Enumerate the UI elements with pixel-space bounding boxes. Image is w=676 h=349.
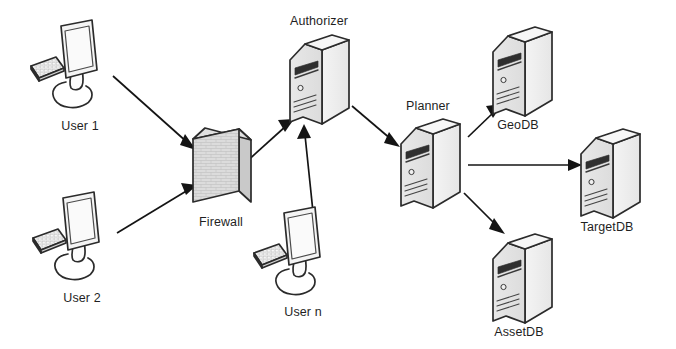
node-firewall[interactable]: Firewall	[193, 128, 251, 229]
server-tower-icon	[493, 27, 552, 116]
workstation-icon	[254, 207, 320, 294]
node-label-usern: User n	[284, 305, 321, 319]
node-label-geodb: GeoDB	[497, 118, 539, 132]
edge-planner-to-assetdb	[464, 193, 505, 234]
node-label-user1: User 1	[61, 119, 98, 133]
edge-authorizer-to-planner	[352, 106, 400, 147]
node-assetdb[interactable]: AssetDB	[493, 234, 552, 339]
edge-firewall-to-authorizer	[245, 119, 294, 163]
node-user1[interactable]: User 1	[31, 20, 99, 133]
edge-user2-to-firewall	[117, 183, 197, 233]
node-usern[interactable]: User n	[254, 207, 322, 319]
node-authorizer[interactable]: Authorizer	[290, 14, 349, 124]
edge-usern-to-authorizer	[297, 124, 313, 212]
server-tower-icon	[290, 35, 349, 124]
node-targetdb[interactable]: TargetDB	[581, 129, 640, 234]
node-geodb[interactable]: GeoDB	[493, 27, 552, 132]
firewall-brick-wall-icon	[193, 128, 251, 202]
server-tower-icon	[581, 129, 640, 218]
server-tower-icon	[401, 119, 460, 208]
workstation-icon	[33, 192, 99, 279]
node-label-planner: Planner	[406, 99, 450, 113]
node-user2[interactable]: User 2	[33, 192, 101, 305]
node-label-authorizer: Authorizer	[290, 14, 348, 28]
edge-planner-to-targetdb	[468, 159, 582, 171]
edge-user1-to-firewall	[113, 76, 196, 150]
node-planner[interactable]: Planner	[401, 99, 460, 208]
network-diagram: User 1 User 2 User n Firewall Authorizer…	[0, 0, 676, 349]
node-label-targetdb: TargetDB	[581, 220, 634, 234]
server-tower-icon	[493, 234, 552, 323]
node-label-user2: User 2	[63, 291, 100, 305]
node-label-assetdb: AssetDB	[494, 325, 543, 339]
workstation-icon	[31, 20, 97, 107]
node-label-firewall: Firewall	[199, 215, 243, 229]
